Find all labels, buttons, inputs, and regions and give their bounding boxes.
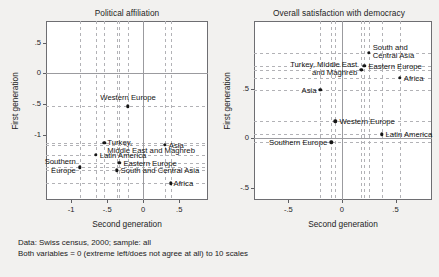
x-tick-mark [179,200,180,203]
guide-line-vertical [335,21,336,200]
x-tick-mark [107,200,108,203]
x-tick-label: 0 [327,205,357,214]
guide-line-vertical [104,21,105,200]
figure-canvas: Political affiliation First generation S… [0,0,439,277]
x-tick-label: 0 [128,205,158,214]
x-tick-mark [396,200,397,203]
x-tick-label: -.5 [273,205,303,214]
y-tick-mark [43,135,46,136]
y-tick-mark [251,89,254,90]
y-axis-title-right: First generation [222,41,232,161]
data-point-label: Africa [174,179,194,188]
y-tick-label: -.5 [224,183,249,192]
y-tick-label: .5 [224,84,249,93]
reference-line-x-zero [342,21,343,200]
y-tick-label: 0 [224,133,249,142]
guide-line-vertical [96,21,97,200]
data-point-label: South andCentral Asia [373,44,414,61]
data-point-label: South and Central Asia [121,166,200,175]
guide-line-vertical [117,21,118,200]
x-tick-mark [342,200,343,203]
reference-line-y-zero [46,73,208,74]
y-tick-mark [43,73,46,74]
guide-line-vertical [80,21,81,200]
data-point-label: SouthernEurope [45,159,76,176]
y-tick-mark [43,43,46,44]
data-point-label: Western Europe [339,117,394,126]
guide-line-vertical [364,21,365,200]
y-tick-label: .5 [16,38,41,47]
data-point-label: Southern Europe [269,138,327,147]
x-tick-mark [71,200,72,203]
y-tick-mark [43,104,46,105]
guide-line-vertical [369,21,370,200]
x-tick-label: .5 [164,205,194,214]
data-point-label: Africa [404,73,424,82]
data-point-label: Turkey, Middle Eastand Maghreb [290,61,357,78]
x-axis-title-left: Second generation [46,219,208,229]
y-tick-label: -1 [16,130,41,139]
y-tick-mark [251,138,254,139]
data-point-label: Asia [302,85,317,94]
data-point-label: Eastern Europe [368,61,421,70]
note-line-1: Data: Swiss census, 2000; sample: all [18,238,151,249]
guide-line-horizontal [254,90,432,91]
note-line-2: Both variables = 0 (extreme left/does no… [18,249,248,260]
x-tick-mark [288,200,289,203]
y-tick-mark [251,188,254,189]
data-point-label: Latin America [386,130,433,139]
guide-line-vertical [331,21,332,200]
data-point-label: Asia [169,141,184,150]
panel-title-left: Political affiliation [46,8,208,18]
y-tick-label: 0 [16,68,41,77]
data-point-label: Western Europe [100,93,155,102]
x-tick-label: -.5 [92,205,122,214]
panel-title-right: Overall satisfaction with democracy [246,8,432,18]
x-tick-label: -1 [56,205,86,214]
guide-line-vertical [361,21,362,200]
x-axis-title-right: Second generation [254,219,432,229]
y-tick-label: -.5 [16,99,41,108]
x-tick-label: .5 [381,205,411,214]
guide-line-vertical [320,21,321,200]
x-tick-mark [143,200,144,203]
